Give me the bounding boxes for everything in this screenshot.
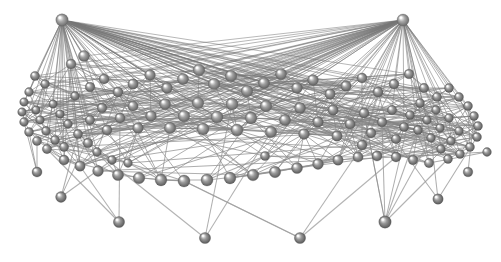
network-graph-canvas bbox=[0, 0, 501, 262]
network-graph-figure bbox=[0, 0, 501, 262]
